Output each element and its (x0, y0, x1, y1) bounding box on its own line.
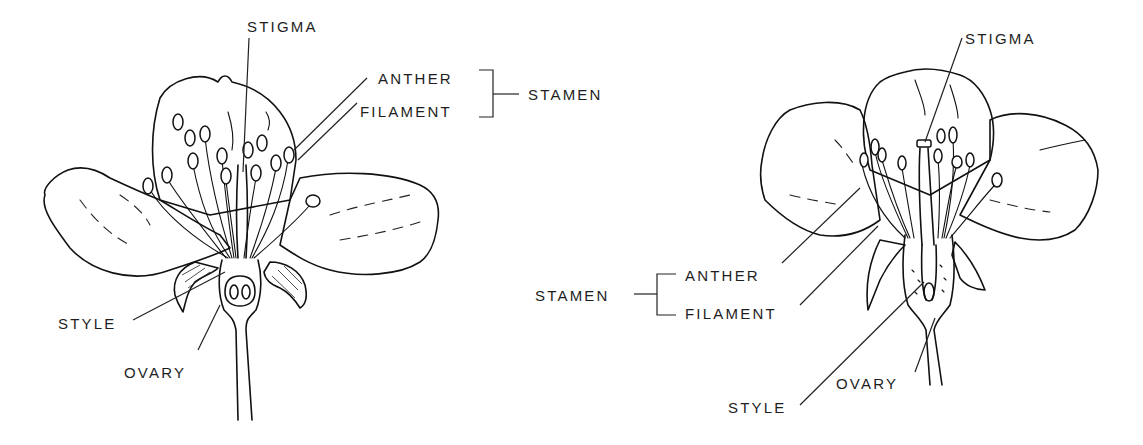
right-label-ovary: OVARY (836, 375, 898, 392)
left-label-stamen: STAMEN (528, 86, 603, 103)
right-label-filament: FILAMENT (685, 305, 777, 322)
right-label-stamen: STAMEN (535, 287, 610, 304)
left-label-stigma: STIGMA (247, 18, 318, 35)
left-label-style: STYLE (58, 315, 117, 332)
right-label-stigma: STIGMA (965, 30, 1036, 47)
left-flower-illustration (44, 38, 519, 420)
left-label-ovary: OVARY (124, 364, 186, 381)
left-label-filament: FILAMENT (360, 103, 452, 120)
right-label-style: STYLE (728, 399, 787, 416)
right-label-anther: ANTHER (685, 267, 760, 284)
right-flower-illustration (634, 38, 1098, 405)
left-label-anther: ANTHER (378, 70, 453, 87)
flower-diagram: STIGMA ANTHER FILAMENT STAMEN STYLE OVAR… (0, 0, 1143, 445)
